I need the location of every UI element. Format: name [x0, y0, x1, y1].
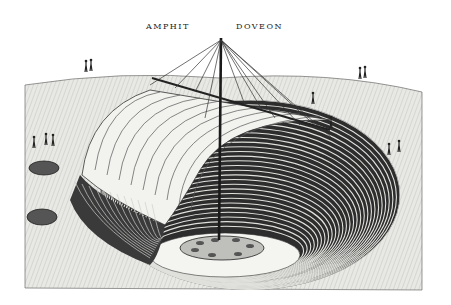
figure	[85, 62, 87, 72]
figure-head	[388, 143, 391, 146]
platform-socket	[191, 248, 199, 252]
figure-head	[52, 134, 55, 137]
platform-socket	[196, 241, 204, 245]
figure-head	[33, 136, 36, 139]
engraving-illustration: AMPHIT DOVEON	[0, 0, 451, 305]
platform-socket	[234, 252, 242, 256]
figure	[90, 61, 92, 71]
figure-head	[312, 92, 315, 95]
platform-socket	[208, 253, 216, 257]
figure-head	[330, 116, 333, 119]
small-pit-upper	[29, 161, 59, 175]
central-platform	[180, 236, 264, 260]
figure-head	[45, 133, 48, 136]
figure-head	[398, 140, 401, 143]
engraving-svg	[0, 0, 451, 305]
small-pit-lower	[27, 209, 57, 225]
figure-head	[359, 67, 362, 70]
caption-right: DOVEON	[236, 22, 283, 31]
figure-head	[364, 66, 367, 69]
figure	[359, 69, 361, 79]
platform-socket	[232, 238, 240, 242]
platform-socket	[246, 244, 254, 248]
figure	[364, 68, 366, 78]
figure-head	[85, 60, 88, 63]
figure-head	[90, 59, 93, 62]
caption-left: AMPHIT	[146, 22, 190, 31]
